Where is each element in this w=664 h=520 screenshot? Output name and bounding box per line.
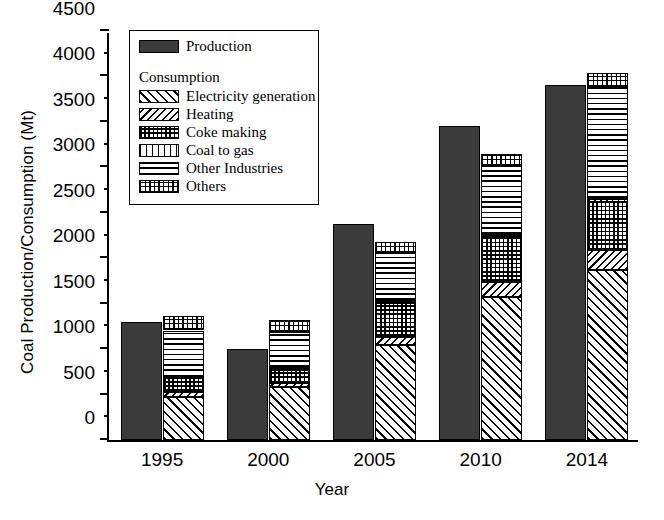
consumption-stacked-bar bbox=[587, 73, 628, 440]
production-bar bbox=[439, 126, 480, 440]
y-tick-minor bbox=[104, 188, 109, 190]
y-tick-label: 2000 bbox=[53, 225, 95, 247]
production-bar bbox=[227, 349, 268, 440]
x-tick-label: 1995 bbox=[141, 449, 183, 471]
consumption-segment-others bbox=[587, 73, 628, 87]
consumption-segment-electricity-generation bbox=[163, 397, 204, 440]
y-tick-minor bbox=[104, 97, 109, 99]
legend-swatch-coke-making bbox=[139, 126, 179, 139]
y-tick-major bbox=[100, 438, 109, 440]
legend-item-electricity-generation: Electricity generation bbox=[139, 88, 310, 105]
consumption-segment-coke-making bbox=[375, 303, 416, 337]
production-segment bbox=[333, 224, 374, 440]
x-tick-label: 2010 bbox=[460, 449, 502, 471]
legend-swatch-others bbox=[139, 180, 179, 193]
legend-label-other-industries: Other Industries bbox=[186, 161, 283, 176]
consumption-stacked-bar bbox=[481, 154, 522, 440]
legend-consumption-items: Electricity generationHeatingCoke making… bbox=[139, 88, 310, 195]
x-tick-label: 2000 bbox=[247, 449, 289, 471]
y-tick-label: 1000 bbox=[53, 316, 95, 338]
consumption-segment-other-industries bbox=[587, 87, 628, 199]
x-tick-label: 2014 bbox=[566, 449, 608, 471]
consumption-segment-heating bbox=[587, 250, 628, 270]
consumption-segment-other-industries bbox=[375, 253, 416, 302]
consumption-segment-heating bbox=[481, 282, 522, 297]
y-tick-minor bbox=[104, 52, 109, 54]
y-tick-label: 2500 bbox=[53, 180, 95, 202]
coal-production-consumption-chart: Coal Production/Consumption (Mt) Year 05… bbox=[0, 0, 664, 520]
y-tick-minor bbox=[104, 234, 109, 236]
y-tick-major bbox=[100, 393, 109, 395]
consumption-segment-other-industries bbox=[269, 332, 310, 368]
x-axis-title: Year bbox=[0, 480, 664, 500]
legend-swatch-coal-to-gas bbox=[139, 144, 179, 157]
y-tick-label: 4000 bbox=[53, 43, 95, 65]
x-tick-label: 2005 bbox=[353, 449, 395, 471]
legend-label-production: Production bbox=[186, 39, 252, 54]
production-segment bbox=[227, 349, 268, 440]
y-tick-major bbox=[100, 211, 109, 213]
consumption-segment-coke-making bbox=[587, 202, 628, 250]
consumption-segment-electricity-generation bbox=[481, 297, 522, 440]
y-tick-minor bbox=[104, 324, 109, 326]
legend-swatch-heating bbox=[139, 108, 179, 121]
legend-swatch-production bbox=[139, 40, 179, 53]
y-tick-label: 3500 bbox=[53, 89, 95, 111]
consumption-segment-electricity-generation bbox=[269, 387, 310, 440]
consumption-segment-other-industries bbox=[481, 166, 522, 235]
legend-item-coal-to-gas: Coal to gas bbox=[139, 142, 310, 159]
legend-item-other-industries: Other Industries bbox=[139, 160, 310, 177]
consumption-segment-coke-making bbox=[269, 370, 310, 383]
legend-item-production: Production bbox=[139, 38, 310, 55]
production-bar bbox=[333, 224, 374, 440]
consumption-segment-electricity-generation bbox=[587, 270, 628, 440]
consumption-stacked-bar bbox=[375, 242, 416, 440]
legend-label-heating: Heating bbox=[186, 107, 233, 122]
y-tick-major bbox=[100, 29, 109, 31]
consumption-segment-heating bbox=[269, 383, 310, 388]
y-tick-label: 1500 bbox=[53, 271, 95, 293]
consumption-segment-coke-making bbox=[163, 378, 204, 392]
consumption-segment-others bbox=[163, 316, 204, 331]
consumption-segment-coal-to-gas bbox=[587, 199, 628, 202]
y-tick-minor bbox=[104, 143, 109, 145]
consumption-segment-others bbox=[481, 154, 522, 165]
consumption-segment-heating bbox=[163, 392, 204, 397]
production-bar bbox=[545, 85, 586, 440]
legend-spacer bbox=[139, 56, 310, 62]
y-tick-label: 3000 bbox=[53, 134, 95, 156]
y-tick-major bbox=[100, 302, 109, 304]
legend-item-others: Others bbox=[139, 178, 310, 195]
legend-label-coke-making: Coke making bbox=[186, 125, 266, 140]
consumption-stacked-bar bbox=[163, 316, 204, 440]
consumption-segment-others bbox=[269, 320, 310, 333]
y-tick-major bbox=[100, 165, 109, 167]
legend-label-coal-to-gas: Coal to gas bbox=[186, 143, 254, 158]
legend-swatch-other-industries bbox=[139, 162, 179, 175]
legend-group-title-consumption: Consumption bbox=[139, 69, 310, 86]
y-tick-minor bbox=[104, 415, 109, 417]
legend-item-coke-making: Coke making bbox=[139, 124, 310, 141]
y-tick-major bbox=[100, 256, 109, 258]
y-tick-label: 500 bbox=[63, 362, 95, 384]
production-segment bbox=[545, 85, 586, 440]
y-tick-major bbox=[100, 120, 109, 122]
consumption-segment-others bbox=[375, 242, 416, 253]
y-tick-label: 0 bbox=[84, 407, 95, 429]
consumption-segment-heating bbox=[375, 337, 416, 346]
consumption-segment-electricity-generation bbox=[375, 345, 416, 440]
legend-item-heating: Heating bbox=[139, 106, 310, 123]
consumption-segment-other-industries bbox=[163, 331, 204, 377]
y-axis-title: Coal Production/Consumption (Mt) bbox=[18, 72, 38, 412]
chart-legend: Production Consumption Electricity gener… bbox=[129, 30, 319, 205]
legend-label-others: Others bbox=[186, 179, 226, 194]
consumption-segment-coke-making bbox=[481, 237, 522, 282]
y-tick-label: 4500 bbox=[53, 0, 95, 20]
y-tick-minor bbox=[104, 370, 109, 372]
production-segment bbox=[439, 126, 480, 440]
legend-label-electricity-generation: Electricity generation bbox=[186, 89, 316, 104]
y-tick-major bbox=[100, 74, 109, 76]
y-tick-major bbox=[100, 347, 109, 349]
production-segment bbox=[121, 322, 162, 440]
y-tick-minor bbox=[104, 279, 109, 281]
